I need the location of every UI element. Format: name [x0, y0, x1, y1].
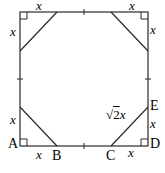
label-x-top-right: x: [129, 0, 135, 14]
point-e: E: [150, 98, 159, 114]
label-x-bottom-left: x: [36, 147, 42, 163]
label-x-right-top: x: [150, 22, 156, 38]
point-c: C: [106, 148, 115, 164]
point-d: D: [150, 136, 160, 152]
labels-layer: x x x x x x x x √2x A B C D E: [0, 0, 165, 173]
label-x-bottom-right: x: [128, 145, 134, 161]
label-x-left-top: x: [10, 24, 16, 40]
hyp-x: x: [120, 107, 126, 122]
label-x-top-left: x: [36, 0, 42, 14]
point-b: B: [52, 148, 61, 164]
point-a: A: [8, 136, 18, 152]
label-x-left-bottom: x: [10, 112, 16, 128]
label-x-right-bottom: x: [150, 116, 156, 132]
label-sqrt2x: √2x: [106, 107, 125, 123]
